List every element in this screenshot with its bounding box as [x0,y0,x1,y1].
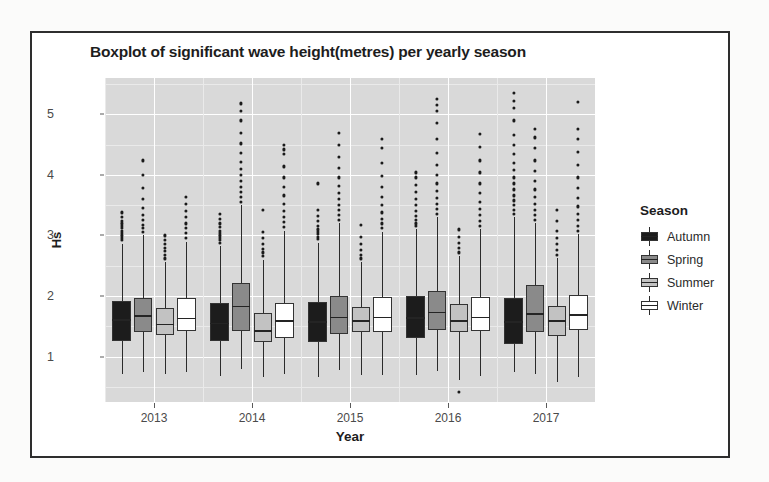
plot-panel [105,78,595,402]
boxplot-median-line [548,320,567,322]
boxplot-iqr-rect [569,295,588,330]
legend-item-autumn[interactable]: Autumn [640,225,714,248]
x-axis-tick-label: 2013 [141,411,168,425]
legend-items: AutumnSpringSummerWinter [640,225,714,317]
gridline-vertical-minor [497,78,498,402]
gridline-vertical [252,78,253,402]
gridline-vertical-minor [399,78,400,402]
legend-item-summer[interactable]: Summer [640,271,714,294]
y-axis-tick-label: 2 [47,289,54,303]
boxplot-iqr-rect [450,304,469,332]
y-axis-tick-mark [100,356,104,357]
legend-key-icon [640,296,659,315]
x-axis-tick-mark [546,403,547,408]
y-axis-tick-mark [100,114,104,115]
boxplot-whisker [284,231,285,374]
x-axis-tick-mark [154,403,155,408]
boxplot-median-line [330,317,349,319]
boxplot-median-line [177,318,196,320]
legend-item-winter[interactable]: Winter [640,294,714,317]
y-axis-tick-label: 1 [47,350,54,364]
y-axis-tick-label: 5 [47,107,54,121]
gridline-vertical [350,78,351,402]
y-axis-tick-label: 3 [47,228,54,242]
boxplot-median-line [504,321,523,323]
gridline-vertical [448,78,449,402]
boxplot-iqr-rect [526,285,545,332]
y-axis-tick-mark [100,296,104,297]
figure-frame: Boxplot of significant wave height(metre… [30,31,730,458]
boxplot-median-line [112,319,131,321]
legend-key-icon [640,273,659,292]
boxplot-median-line [373,317,392,319]
gridline-vertical-minor [105,78,106,402]
boxplot-median-line [471,317,490,319]
boxplot-median-line [275,320,294,322]
x-axis-tick-mark [448,403,449,408]
boxplot-median-line [406,317,425,319]
boxplot-median-line [232,306,251,308]
legend-key-icon [640,227,659,246]
boxplot-iqr-rect [428,291,447,330]
page-title: Boxplot of significant wave height(metre… [90,43,526,61]
boxplot-median-line [352,320,371,322]
x-axis-tick-label: 2014 [239,411,266,425]
boxplot-iqr-rect [156,308,175,335]
x-axis-tick-label: 2016 [435,411,462,425]
boxplot-median-line [254,330,273,332]
boxplot-iqr-rect [471,297,490,331]
y-axis-tick-mark [100,235,104,236]
legend-item-spring[interactable]: Spring [640,248,714,271]
boxplot-median-line [526,313,545,315]
legend-title: Season [640,203,714,218]
boxplot-median-line [428,312,447,314]
legend-key-icon [640,250,659,269]
gridline-vertical-minor [301,78,302,402]
boxplot-median-line [308,321,327,323]
boxplot-median-line [134,315,153,317]
x-axis-tick-label: 2015 [337,411,364,425]
boxplot-iqr-rect [330,296,349,334]
legend-item-label: Summer [667,276,714,290]
legend-item-label: Spring [667,253,703,267]
x-axis-title: Year [336,429,365,444]
x-axis-tick-mark [252,403,253,408]
boxplot-median-line [210,323,229,325]
boxplot-median-line [156,324,175,326]
y-axis-tick-label: 4 [47,168,54,182]
legend-item-label: Winter [667,299,703,313]
legend: Season AutumnSpringSummerWinter [640,203,714,317]
boxplot-median-line [569,314,588,316]
boxplot-iqr-rect [373,297,392,332]
boxplot-iqr-rect [112,301,131,342]
boxplot-whisker [514,217,515,372]
legend-item-label: Autumn [667,230,710,244]
y-axis-tick-mark [100,174,104,175]
boxplot-iqr-rect [177,298,196,331]
x-axis-tick-label: 2017 [533,411,560,425]
gridline-vertical-minor [203,78,204,402]
gridline-vertical [546,78,547,402]
x-axis-tick-mark [350,403,351,408]
gridline-vertical [154,78,155,402]
boxplot-median-line [450,320,469,322]
boxplot-iqr-rect [254,313,273,342]
